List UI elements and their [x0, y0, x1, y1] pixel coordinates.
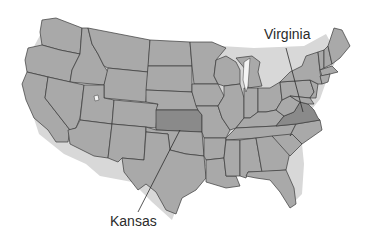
state-kansas[interactable]	[156, 110, 202, 132]
state-south-dakota[interactable]	[146, 66, 192, 92]
state-florida[interactable]	[246, 170, 296, 208]
state-arkansas[interactable]	[204, 138, 226, 160]
state-mississippi[interactable]	[224, 140, 240, 176]
state-connecticut[interactable]	[320, 74, 330, 84]
state-wyoming[interactable]	[104, 68, 148, 102]
great-salt-lake	[94, 95, 99, 101]
state-north-dakota[interactable]	[148, 40, 192, 66]
label-kansas: Kansas	[110, 213, 157, 229]
state-colorado[interactable]	[112, 100, 158, 128]
state-maine[interactable]	[328, 28, 350, 64]
label-virginia: Virginia	[264, 26, 310, 42]
state-iowa[interactable]	[192, 84, 224, 106]
state-new-mexico[interactable]	[108, 124, 146, 162]
us-map	[0, 0, 388, 244]
